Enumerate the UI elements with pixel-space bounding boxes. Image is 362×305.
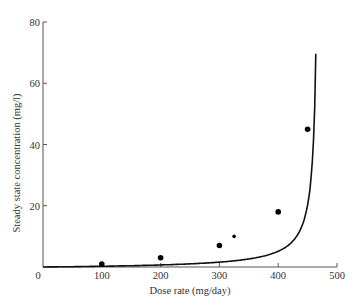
y-tick-label: 60 (30, 78, 41, 89)
y-tick-label: 80 (30, 17, 41, 28)
fitted-curve (43, 54, 316, 267)
data-point (158, 255, 164, 261)
x-tick-label: 400 (270, 270, 286, 281)
y-axis-title: Steady state concentration (mg/l) (11, 93, 23, 233)
y-tick-label: 40 (30, 140, 41, 151)
data-point (275, 209, 281, 215)
x-tick-label: 100 (94, 270, 110, 281)
curve-path (43, 54, 316, 267)
data-point (305, 126, 311, 132)
x-tick-label: 300 (212, 270, 228, 281)
x-tick-label: 500 (329, 270, 345, 281)
x-axis-title: Dose rate (mg/day) (149, 285, 231, 297)
data-point (232, 235, 236, 239)
x-tick-label: 0 (35, 270, 40, 281)
y-tick-label: 20 (30, 201, 41, 212)
x-tick-label: 200 (153, 270, 169, 281)
data-points (99, 126, 310, 266)
data-point (217, 243, 223, 249)
data-point (99, 261, 105, 267)
axes: 010020030040050020406080 (30, 17, 345, 281)
chart: 010020030040050020406080 Dose rate (mg/d… (0, 0, 362, 305)
